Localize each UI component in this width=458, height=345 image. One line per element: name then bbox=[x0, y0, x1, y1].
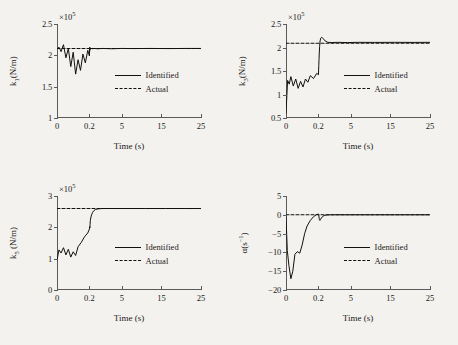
panel-k1: k1(N/m) ×105 11.522.500.251525Identified… bbox=[0, 0, 229, 172]
y-tick bbox=[283, 24, 287, 25]
y-tick bbox=[283, 118, 287, 119]
y-tick-label: 2.5 bbox=[271, 19, 281, 29]
x-tick bbox=[351, 114, 352, 118]
x-tick bbox=[430, 114, 431, 118]
legend-label: Identified bbox=[375, 243, 408, 252]
x-tick-label: 0 bbox=[284, 293, 288, 303]
panel-alpha: α(s−1) −20−15−10−50500.251525IdentifiedA… bbox=[229, 172, 458, 344]
y-tick bbox=[54, 87, 58, 88]
legend-key-solid-icon bbox=[344, 72, 370, 79]
y-tick-label: 2 bbox=[48, 50, 52, 60]
x-tick bbox=[286, 114, 287, 118]
y-tick bbox=[54, 290, 58, 291]
y-tick-label: −20 bbox=[268, 285, 281, 295]
x-tick-label: 15 bbox=[157, 121, 166, 131]
figure-four-panel-identification: k1(N/m) ×105 11.522.500.251525Identified… bbox=[0, 0, 458, 345]
x-tick-label: 15 bbox=[386, 293, 395, 303]
y-tick bbox=[283, 234, 287, 235]
y-tick-label: 1 bbox=[48, 113, 52, 123]
y-tick bbox=[54, 24, 58, 25]
y-tick-label: 1.5 bbox=[271, 66, 281, 76]
y-axis-title-alpha: α(s−1) bbox=[237, 232, 249, 253]
y-tick bbox=[283, 196, 287, 197]
x-tick bbox=[89, 114, 90, 118]
x-tick-label: 0 bbox=[55, 293, 59, 303]
x-tick bbox=[201, 114, 202, 118]
legend-key-solid-icon bbox=[344, 244, 370, 251]
x-axis-title-k3: Time (s) bbox=[343, 141, 373, 151]
x-tick bbox=[318, 286, 319, 290]
y-tick bbox=[54, 259, 58, 260]
legend-key-solid-icon bbox=[115, 244, 141, 251]
plot-area-alpha: −20−15−10−50500.251525IdentifiedActual bbox=[286, 196, 430, 290]
legend-item-identified: Identified bbox=[115, 71, 179, 80]
legend-label: Actual bbox=[146, 257, 169, 266]
y-tick bbox=[54, 55, 58, 56]
x-tick bbox=[161, 114, 162, 118]
x-tick bbox=[122, 286, 123, 290]
legend-label: Identified bbox=[375, 71, 408, 80]
x-tick-label: 5 bbox=[349, 293, 353, 303]
x-tick-label: 15 bbox=[386, 121, 395, 131]
y-tick-label: 1.5 bbox=[42, 82, 52, 92]
y-tick bbox=[283, 215, 287, 216]
x-axis-title-k1: Time (s) bbox=[114, 141, 144, 151]
y-tick-label: 0 bbox=[48, 285, 52, 295]
y-tick-label: 2 bbox=[277, 43, 281, 53]
legend-key-dashed-icon bbox=[115, 85, 141, 92]
x-tick bbox=[122, 114, 123, 118]
legend: IdentifiedActual bbox=[344, 243, 408, 270]
y-axis-title-k5: k5 (N/m) bbox=[8, 227, 20, 259]
x-tick-label: 5 bbox=[120, 121, 124, 131]
x-tick-label: 25 bbox=[197, 293, 206, 303]
y-axis-title-k1: k1(N/m) bbox=[8, 56, 20, 86]
x-tick-label: 0.2 bbox=[313, 121, 324, 131]
y-tick bbox=[54, 118, 58, 119]
y-tick-label: −15 bbox=[268, 266, 281, 276]
y-tick-label: 2 bbox=[48, 222, 52, 232]
x-tick-label: 0.2 bbox=[313, 293, 324, 303]
x-tick bbox=[390, 286, 391, 290]
x-tick bbox=[430, 286, 431, 290]
legend-item-identified: Identified bbox=[344, 243, 408, 252]
x-tick bbox=[390, 114, 391, 118]
x-tick bbox=[318, 114, 319, 118]
legend-item-actual: Actual bbox=[344, 257, 408, 266]
panel-k5: k5 (N/m) ×105 012300.251525IdentifiedAct… bbox=[0, 172, 229, 344]
legend-label: Identified bbox=[146, 71, 179, 80]
x-tick-label: 0 bbox=[284, 121, 288, 131]
x-tick-label: 25 bbox=[197, 121, 206, 131]
x-tick bbox=[57, 286, 58, 290]
x-axis-title-k5: Time (s) bbox=[114, 313, 144, 323]
y-tick bbox=[283, 71, 287, 72]
legend-label: Actual bbox=[375, 257, 398, 266]
x-tick bbox=[89, 286, 90, 290]
x-tick bbox=[201, 286, 202, 290]
legend: IdentifiedActual bbox=[344, 71, 408, 98]
x-tick bbox=[161, 286, 162, 290]
y-tick-label: 0 bbox=[277, 210, 281, 220]
legend-item-actual: Actual bbox=[115, 85, 179, 94]
y-multiplier-k1: ×105 bbox=[59, 10, 76, 22]
legend-item-actual: Actual bbox=[344, 85, 408, 94]
y-tick bbox=[283, 252, 287, 253]
x-tick-label: 0.2 bbox=[84, 293, 95, 303]
x-tick-label: 0.2 bbox=[84, 121, 95, 131]
x-tick-label: 15 bbox=[157, 293, 166, 303]
plot-area-k5: ×105 012300.251525IdentifiedActual bbox=[57, 196, 201, 290]
y-tick-label: −5 bbox=[272, 229, 281, 239]
x-tick-label: 0 bbox=[55, 121, 59, 131]
x-axis-title-alpha: Time (s) bbox=[343, 313, 373, 323]
y-tick-label: 1 bbox=[277, 90, 281, 100]
legend-item-actual: Actual bbox=[115, 257, 179, 266]
plot-area-k3: ×105 0.511.522.500.251525IdentifiedActua… bbox=[286, 24, 430, 118]
panel-k3: k3(N/m) ×105 0.511.522.500.251525Identif… bbox=[229, 0, 458, 172]
series-identified bbox=[57, 45, 201, 74]
y-tick bbox=[283, 271, 287, 272]
legend: IdentifiedActual bbox=[115, 71, 179, 98]
x-tick-label: 5 bbox=[349, 121, 353, 131]
legend-key-dashed-icon bbox=[344, 85, 370, 92]
y-axis-title-k3: k3(N/m) bbox=[237, 56, 249, 86]
legend-label: Actual bbox=[146, 85, 169, 94]
legend-label: Actual bbox=[375, 85, 398, 94]
